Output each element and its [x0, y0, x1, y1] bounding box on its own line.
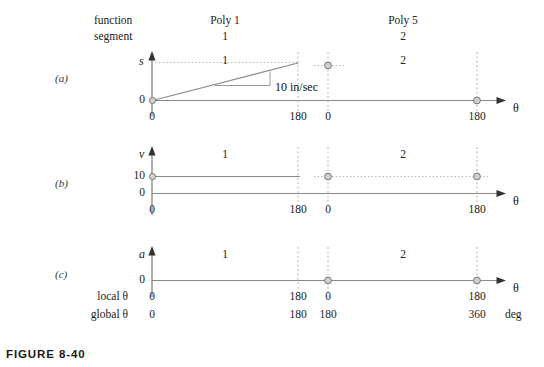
- panel-b-x-arrow: [497, 190, 507, 197]
- panel-a-y-var-label: s: [139, 54, 144, 69]
- local-theta-value-1: 180: [284, 290, 312, 302]
- global-theta-value-3: 360: [463, 308, 491, 320]
- panel-a-xtick-2: 0: [314, 110, 342, 122]
- panel-c-marker-seg2-start: [325, 277, 332, 284]
- header-function-col-2: Poly 5: [348, 14, 458, 26]
- panel-a-x-arrow: [497, 97, 507, 104]
- local-theta-row-label: local θ: [60, 290, 128, 302]
- panel-a-segnum-2: 2: [389, 54, 417, 66]
- panel-b-xtick-0: 0: [138, 203, 166, 215]
- global-theta-value-0: 0: [138, 308, 166, 320]
- panel-b-ytick-10: 10: [123, 169, 145, 181]
- panel-b-ytick-0: 0: [131, 186, 145, 198]
- header-segment-col-2: 2: [348, 30, 458, 42]
- panel-c-marker-seg2-end: [474, 277, 481, 284]
- global-theta-value-1: 180: [284, 308, 312, 320]
- panel-c-ytick-0: 0: [131, 273, 145, 285]
- panel-b-y-arrow: [148, 146, 155, 156]
- local-theta-value-2: 0: [314, 290, 342, 302]
- panel-a-slope-annotation: 10 in/sec: [275, 80, 318, 95]
- panel-a-x-var-label: θ: [513, 101, 519, 116]
- panel-b-marker-seg1-start: [149, 173, 155, 179]
- header-function-label: function: [94, 14, 132, 26]
- panel-a-ytick-0: 0: [131, 93, 145, 105]
- local-theta-value-0: 0: [138, 290, 166, 302]
- header-function-col-1: Poly 1: [170, 14, 280, 26]
- panel-b-xtick-2: 0: [314, 203, 342, 215]
- panel-b-xtick-1: 180: [284, 203, 312, 215]
- panel-b-x-var-label: θ: [513, 194, 519, 209]
- figure-caption: FIGURE 8-40: [6, 348, 86, 360]
- panel-a-xtick-0: 0: [138, 110, 166, 122]
- figure-container: function segment Poly 1 1 Poly 5 2 (a): [0, 0, 544, 367]
- panel-c-segnum-2: 2: [389, 248, 417, 260]
- panel-a-y-arrow: [148, 51, 155, 61]
- panel-a-marker-seg2-start: [325, 62, 332, 69]
- panel-b-y-var-label: v: [139, 147, 144, 162]
- panel-c-x-arrow: [497, 277, 507, 284]
- panel-b-marker-seg2-start: [325, 173, 332, 180]
- global-theta-unit: deg: [505, 308, 522, 320]
- panel-b-segnum-2: 2: [389, 148, 417, 160]
- panel-a-marker-seg2-end: [474, 97, 481, 104]
- header-segment-col-1: 1: [170, 30, 280, 42]
- panel-b-xtick-3: 180: [463, 203, 491, 215]
- panel-c-x-var-label: θ: [513, 281, 519, 296]
- panel-a-xtick-1: 180: [284, 110, 312, 122]
- local-theta-value-3: 180: [463, 290, 491, 302]
- panel-label-a: (a): [55, 72, 68, 84]
- panel-c-segnum-1: 1: [211, 248, 239, 260]
- panel-b-marker-seg2-end: [474, 173, 481, 180]
- panel-b-segnum-1: 1: [211, 148, 239, 160]
- panel-a-xtick-3: 180: [463, 110, 491, 122]
- header-segment-label: segment: [94, 30, 132, 42]
- panel-c-y-var-label: a: [139, 247, 145, 262]
- global-theta-value-2: 180: [314, 308, 342, 320]
- panel-a-marker-origin: [149, 97, 155, 103]
- panel-a-segnum-1: 1: [211, 54, 239, 66]
- global-theta-row-label: global θ: [60, 308, 128, 320]
- panel-label-b: (b): [55, 177, 68, 189]
- panel-label-c: (c): [55, 268, 67, 280]
- panel-c-y-arrow: [148, 246, 155, 256]
